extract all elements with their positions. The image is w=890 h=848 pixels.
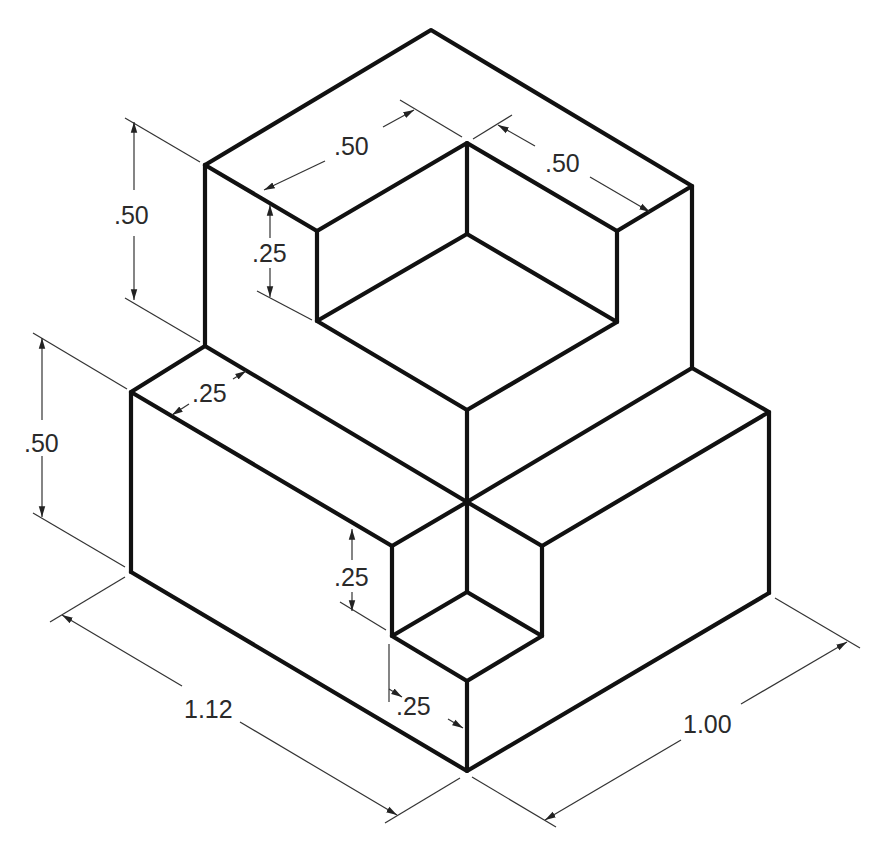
dim-overall-width: 1.00 [472, 598, 860, 827]
dimensions: .50 .50 .50 .25 .50 [24, 100, 860, 827]
svg-text:.25: .25 [252, 239, 287, 267]
svg-text:.25: .25 [334, 563, 369, 591]
dim-upper-height: .50 [114, 118, 200, 342]
isometric-drawing: .50 .50 .50 .25 .50 [0, 0, 890, 848]
ledge-right [542, 368, 769, 546]
dim-lower-notch-depth: .25 [334, 529, 386, 630]
svg-text:.50: .50 [334, 132, 369, 160]
svg-text:.25: .25 [396, 692, 431, 720]
lower-notch-floor [392, 592, 542, 681]
ledge-left-inner [205, 346, 467, 502]
svg-text:.50: .50 [114, 201, 149, 229]
upper-notch-floor [317, 234, 617, 410]
svg-text:.50: .50 [24, 429, 59, 457]
svg-text:.25: .25 [192, 379, 227, 407]
lower-notch-top-left [392, 502, 467, 546]
svg-text:1.12: 1.12 [184, 695, 233, 723]
dim-lower-height: .50 [24, 333, 127, 567]
ledge-left [131, 346, 392, 546]
svg-text:.50: .50 [545, 149, 580, 177]
svg-text:1.00: 1.00 [683, 710, 732, 738]
upper-left-top-edge [205, 165, 317, 231]
lower-notch-top-right [467, 502, 542, 546]
dim-ledge-width: .25 [172, 371, 246, 415]
upper-top-edges [205, 30, 692, 231]
